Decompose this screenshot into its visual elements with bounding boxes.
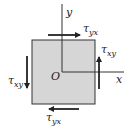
bottom-shear-label: τyx — [46, 111, 62, 126]
y-axis-label: y — [65, 6, 73, 19]
top-shear-label: τyx — [83, 22, 99, 37]
x-axis-label: x — [116, 73, 123, 86]
right-shear-label: τxy — [101, 43, 117, 58]
stress-element-diagram: y x O τyx τxy τxy τyx — [0, 0, 140, 135]
origin-label: O — [51, 70, 60, 83]
left-shear-label: τxy — [8, 74, 24, 89]
